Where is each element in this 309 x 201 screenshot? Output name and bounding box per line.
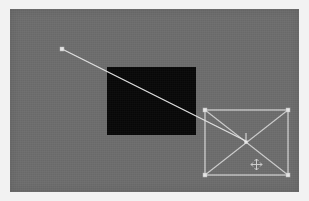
handle-top-left[interactable]: [203, 108, 207, 112]
screenshot-root: [0, 0, 309, 201]
selection-center-handle[interactable]: [244, 140, 247, 143]
vector-overlay: [10, 9, 299, 192]
line-start-handle[interactable]: [60, 47, 64, 51]
handle-top-right[interactable]: [286, 108, 290, 112]
handle-bottom-right[interactable]: [286, 173, 290, 177]
shape-line[interactable]: [62, 49, 246, 141]
drawing-canvas[interactable]: [10, 9, 299, 192]
handle-bottom-left[interactable]: [203, 173, 207, 177]
